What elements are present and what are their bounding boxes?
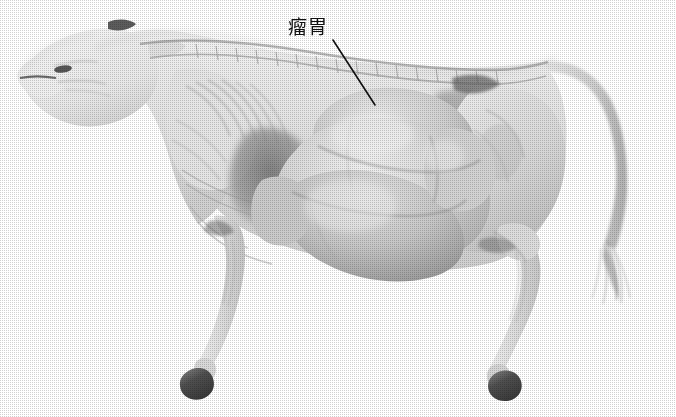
- annotation-layer: 瘤胃: [0, 0, 676, 417]
- label-rumen: 瘤胃: [288, 17, 328, 37]
- anatomy-figure: 瘤胃: [0, 0, 676, 417]
